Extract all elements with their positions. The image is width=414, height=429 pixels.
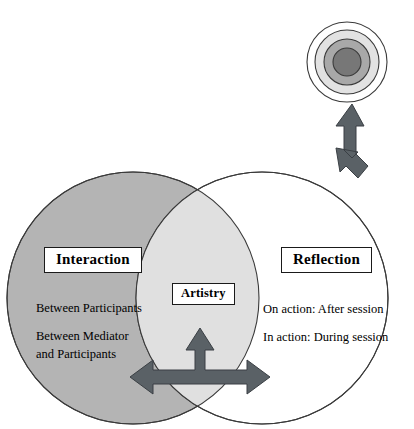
artistry-label: Artistry <box>172 283 235 305</box>
interaction-detail-line-1: Between Participants <box>36 299 142 318</box>
venn-diagram-graphic <box>0 0 414 429</box>
concentric-target <box>307 22 387 102</box>
interaction-detail-line-2: Between Mediator and Participants <box>36 327 142 364</box>
reflection-detail-line-2: In action: During session <box>263 328 388 347</box>
diagram-canvas: Interaction Between Participants Between… <box>0 0 414 429</box>
reflection-label: Reflection <box>281 247 372 273</box>
reflection-details: On action: After session In action: Duri… <box>263 300 388 346</box>
reflection-detail-line-1: On action: After session <box>263 300 388 319</box>
interaction-details: Between Participants Between Mediator an… <box>36 299 142 364</box>
bent-double-arrow-reflection-to-target <box>336 104 368 178</box>
interaction-label: Interaction <box>44 247 142 273</box>
interaction-detail-line-2a: Between Mediator <box>36 327 142 346</box>
target-ring-center <box>333 48 361 76</box>
interaction-detail-line-2b: and Participants <box>36 345 142 364</box>
